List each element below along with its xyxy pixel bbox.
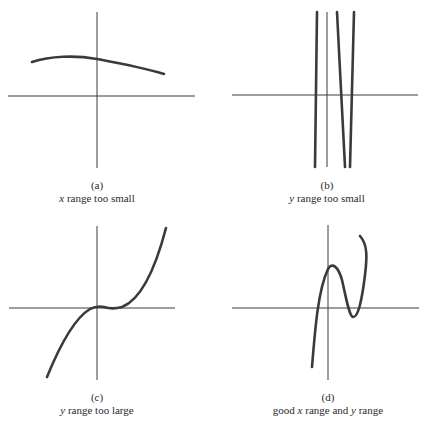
- panel-d-description: good x range and y range: [253, 404, 403, 417]
- panel-b-graph: [232, 12, 418, 167]
- panel-b-curve-branch-3: [350, 12, 354, 167]
- panel-a-curve: [32, 57, 164, 74]
- panel-b-tag: (b): [252, 179, 402, 192]
- panel-a-desc-rest: range too small: [64, 192, 135, 204]
- panel-d-curve: [312, 236, 366, 367]
- panel-a-description: x range too small: [22, 192, 172, 205]
- panel-b-curve-branch-1: [315, 12, 317, 167]
- panel-a-caption: (a) x range too small: [22, 179, 172, 205]
- panel-b-curve-branch-2: [337, 12, 345, 167]
- panel-c-tag: (c): [22, 391, 172, 404]
- panel-c-desc-rest: range too large: [65, 404, 134, 416]
- panel-d-desc-part-2: range and: [303, 404, 352, 416]
- panel-b-desc-rest: range too small: [294, 192, 365, 204]
- panel-c-graph: [9, 226, 175, 380]
- panel-c-curve: [47, 228, 166, 377]
- panel-d-desc-part-1: good: [273, 404, 298, 416]
- panel-a-tag: (a): [22, 179, 172, 192]
- panel-d-desc-part-3: range: [356, 404, 383, 416]
- panel-d-graph: [232, 225, 419, 380]
- panel-a-graph: [8, 12, 195, 168]
- figure-graphs: [0, 0, 433, 424]
- panel-b-description: y range too small: [252, 192, 402, 205]
- panel-c-description: y range too large: [22, 404, 172, 417]
- panel-b-caption: (b) y range too small: [252, 179, 402, 205]
- panel-c-caption: (c) y range too large: [22, 391, 172, 417]
- panel-d-caption: (d) good x range and y range: [253, 391, 403, 417]
- panel-d-tag: (d): [253, 391, 403, 404]
